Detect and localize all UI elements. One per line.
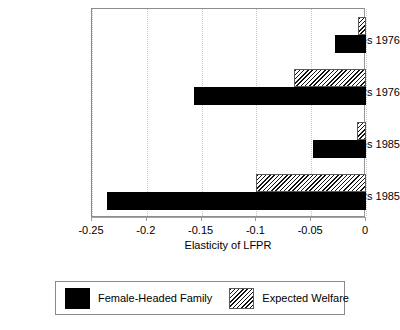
x-axis-tickmark: [255, 217, 256, 221]
legend-item-female-headed-family: Female-Headed Family: [65, 288, 212, 309]
gridline: [147, 9, 148, 216]
plot-area: [91, 8, 365, 217]
legend-label-expected-welfare: Expected Welfare: [262, 292, 349, 305]
legend-label-female-headed-family: Female-Headed Family: [98, 292, 212, 305]
x-axis-tickmarks: [91, 217, 365, 223]
x-axis-tickmark: [201, 217, 202, 221]
bar-expected-welfare: [358, 17, 366, 35]
x-axis-tick-label: -0.25: [78, 224, 103, 237]
hatched-swatch-icon: [229, 288, 254, 309]
bar-expected-welfare: [256, 174, 366, 192]
bar-female-headed-family: [313, 140, 366, 158]
bar-female-headed-family: [335, 35, 366, 53]
chart-legend: Female-Headed Family Expected Welfare: [55, 281, 345, 315]
x-axis-tick-label: -0.1: [246, 224, 265, 237]
bar-female-headed-family: [107, 192, 366, 210]
x-axis-tick-label: -0.15: [188, 224, 213, 237]
legend-item-expected-welfare: Expected Welfare: [229, 288, 349, 309]
x-axis-tick-label: -0.05: [298, 224, 323, 237]
gridline: [202, 9, 203, 216]
x-axis-tickmark: [91, 217, 92, 221]
x-axis-title: Elasticity of LFPR: [91, 239, 365, 252]
chart-figure: Whites 1976 Blacks 1976 Whites 1985 Blac…: [0, 0, 400, 330]
x-axis-tick-label: -0.2: [136, 224, 155, 237]
bar-female-headed-family: [194, 87, 366, 105]
solid-black-swatch-icon: [65, 288, 90, 309]
x-axis-tickmark: [310, 217, 311, 221]
gridline: [92, 9, 93, 216]
bar-expected-welfare: [357, 122, 366, 140]
x-axis-tickmark: [146, 217, 147, 221]
gridline: [366, 9, 367, 216]
bar-expected-welfare: [294, 69, 366, 87]
x-axis-tickmark: [365, 217, 366, 221]
x-axis-tick-label: 0: [362, 224, 368, 237]
